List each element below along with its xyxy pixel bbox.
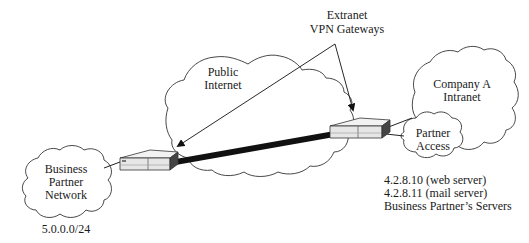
servers-caption-label: Business Partner’s Servers — [384, 199, 512, 213]
company-intranet-label-line2: Intranet — [443, 90, 481, 104]
partner-access-label-line2: Access — [416, 139, 450, 153]
callout-label-line2: VPN Gateways — [310, 22, 385, 36]
business-partner-label-line1: Business — [45, 162, 88, 176]
web-server-label: 4.2.8.10 (web server) — [384, 173, 486, 187]
left-gateway-icon — [120, 150, 178, 170]
business-partner-label-line3: Network — [45, 188, 87, 202]
mail-server-label: 4.2.8.11 (mail server) — [384, 186, 487, 200]
partner-access-label-line1: Partner — [416, 126, 451, 140]
partner-subnet-label: 5.0.0.0/24 — [42, 222, 90, 236]
public-internet-label-line1: Public — [208, 65, 239, 79]
company-intranet-label-line1: Company A — [433, 77, 491, 91]
callout-label-line1: Extranet — [327, 8, 368, 22]
business-partner-label-line2: Partner — [49, 175, 84, 189]
network-diagram: Extranet VPN Gateways Public Internet Bu… — [0, 0, 529, 243]
public-internet-label-line2: Internet — [204, 78, 242, 92]
